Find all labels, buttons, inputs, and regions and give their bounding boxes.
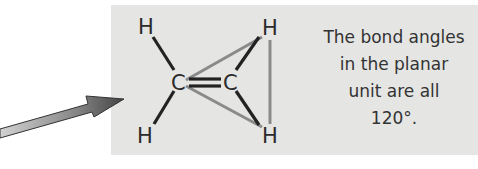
atom-h-top-right: H — [262, 16, 278, 40]
pointer-arrow-icon — [0, 96, 124, 138]
caption: The bond angles in the planar unit are a… — [318, 24, 470, 132]
bonds — [153, 37, 259, 125]
atoms: H C C H H H — [137, 15, 278, 148]
atom-c-left: C — [171, 71, 186, 95]
atom-h-top-left: H — [138, 15, 154, 39]
atom-h-bottom-right: H — [262, 124, 278, 148]
atom-c-right: C — [223, 71, 238, 95]
caption-line-4: 120°. — [318, 105, 470, 132]
bond-c2-h2 — [236, 37, 259, 70]
atom-h-bottom-left: H — [137, 124, 153, 148]
caption-line-3: unit are all — [318, 78, 470, 105]
caption-line-2: in the planar — [318, 51, 470, 78]
caption-line-1: The bond angles — [318, 24, 470, 51]
bond-h3-c1 — [154, 91, 174, 124]
bond-h1-c1 — [153, 37, 174, 70]
